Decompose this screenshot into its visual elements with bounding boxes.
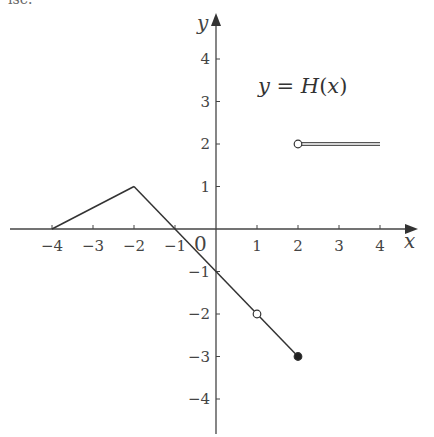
open-point-marker (253, 310, 261, 318)
y-tick-label: −1 (188, 263, 210, 281)
chart-title: y = H(x) (257, 74, 347, 98)
segment-3 (257, 314, 298, 357)
x-tick-label: −1 (164, 237, 186, 255)
y-tick-label: 2 (200, 135, 210, 153)
filled-point-marker (294, 353, 302, 361)
y-tick-label: −3 (188, 348, 210, 366)
axes: x y (10, 11, 418, 434)
x-axis-label: x (404, 229, 415, 253)
x-tick-label: −2 (123, 237, 145, 255)
y-tick-label: 3 (200, 93, 210, 111)
origin-label: 0 (194, 232, 207, 256)
graph-of-H: x y −4−3−2−11234 4321−1−2−3−4 0 y = H(x) (0, 0, 434, 437)
x-tick-label: −4 (41, 237, 63, 255)
segment-2 (134, 187, 257, 315)
x-tick-label: 1 (252, 237, 262, 255)
y-axis-label: y (196, 11, 209, 35)
open-point-marker (294, 140, 302, 148)
x-tick-label: 4 (375, 237, 385, 255)
y-axis-arrow-icon (211, 13, 221, 26)
y-tick-label: 4 (200, 50, 210, 68)
segment-1 (52, 187, 134, 230)
y-tick-label: 1 (200, 178, 210, 196)
y-tick-label: −4 (188, 390, 210, 408)
x-tick-label: 2 (293, 237, 303, 255)
x-tick-label: −3 (82, 237, 104, 255)
x-tick-label: 3 (334, 237, 344, 255)
y-tick-label: −2 (188, 305, 210, 323)
